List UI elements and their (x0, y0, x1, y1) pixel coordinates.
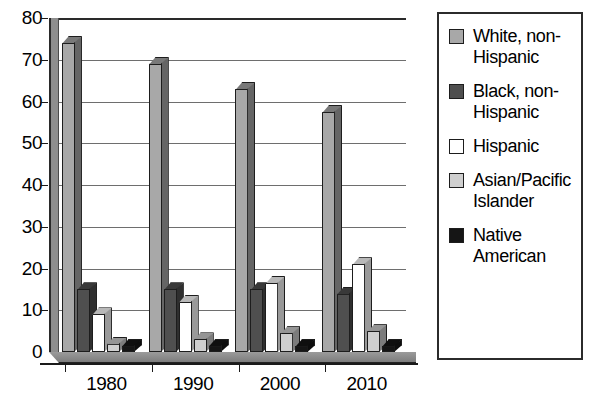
x-axis-tick-label: 2010 (346, 374, 386, 394)
legend-swatch-icon (449, 228, 464, 243)
bar (149, 64, 162, 352)
y-axis-tick-mark (40, 310, 48, 311)
bar (107, 344, 120, 352)
bar (92, 314, 105, 352)
legend-items: White, non- HispanicBlack, non- Hispanic… (449, 26, 581, 267)
x-axis-tick-mark (65, 363, 66, 372)
x-axis-tick-mark (239, 363, 240, 372)
legend-item[interactable]: Asian/Pacific Islander (449, 170, 581, 212)
y-axis-tick-label: 60 (22, 92, 42, 111)
x-axis-tick-label: 1980 (86, 374, 126, 394)
bar (337, 294, 350, 352)
y-axis-tick-label: 80 (22, 8, 42, 27)
y-axis-tick-mark (40, 227, 48, 228)
bar (179, 302, 192, 352)
legend-item[interactable]: Black, non- Hispanic (449, 81, 581, 123)
y-axis-3d-face (49, 18, 59, 352)
x-axis-tick-label: 2000 (260, 374, 300, 394)
plot-area: 80706050403020100 1980199020002010 (0, 0, 425, 420)
legend-swatch-icon (449, 173, 464, 188)
bar (194, 339, 207, 352)
gridline (59, 143, 406, 144)
bar (352, 264, 365, 352)
bar (164, 289, 177, 352)
bar (235, 89, 248, 352)
y-axis: 80706050403020100 (0, 0, 46, 420)
gridline (59, 185, 406, 186)
gridline (59, 102, 406, 103)
legend-swatch-icon (449, 84, 464, 99)
plot-top-border (49, 18, 406, 20)
legend-item[interactable]: Native American (449, 225, 581, 267)
bar (367, 331, 380, 352)
y-axis-tick-mark (40, 143, 48, 144)
chart-figure: 80706050403020100 1980199020002010 White… (0, 0, 591, 420)
y-axis-tick-mark (40, 18, 48, 19)
legend-swatch-icon (449, 29, 464, 44)
legend-item-label: Native American (473, 225, 546, 267)
x-axis-tick-mark (325, 363, 326, 372)
bar (265, 283, 278, 352)
legend-item-label: White, non- Hispanic (473, 26, 561, 68)
legend-item-label: Black, non- Hispanic (473, 81, 559, 123)
bar (250, 289, 263, 352)
x-axis-tick-mark (152, 363, 153, 372)
legend: White, non- HispanicBlack, non- Hispanic… (437, 12, 583, 360)
y-axis-tick-mark (40, 185, 48, 186)
gridline (59, 60, 406, 61)
y-axis-tick-label: 70 (22, 50, 42, 69)
x-axis-tick-label: 1990 (173, 374, 213, 394)
y-axis-tick-label: 20 (22, 259, 42, 278)
y-axis-tick-label: 50 (22, 133, 42, 152)
x-axis-3d-floor (49, 352, 416, 363)
y-axis-tick-mark (40, 60, 48, 61)
gridline (59, 227, 406, 228)
x-axis-baseline (40, 363, 418, 365)
legend-item[interactable]: Hispanic (449, 136, 581, 157)
y-axis-tick-mark (40, 102, 48, 103)
bar (77, 289, 90, 352)
bar (280, 333, 293, 352)
y-axis-tick-label: 0 (32, 342, 42, 361)
bar (62, 43, 75, 352)
legend-item[interactable]: White, non- Hispanic (449, 26, 581, 68)
y-axis-tick-label: 10 (22, 300, 42, 319)
legend-item-label: Asian/Pacific Islander (473, 170, 571, 212)
legend-item-label: Hispanic (473, 136, 539, 157)
y-axis-tick-label: 30 (22, 217, 42, 236)
bar (322, 112, 335, 352)
legend-swatch-icon (449, 139, 464, 154)
y-axis-tick-mark (40, 269, 48, 270)
y-axis-tick-label: 40 (22, 175, 42, 194)
